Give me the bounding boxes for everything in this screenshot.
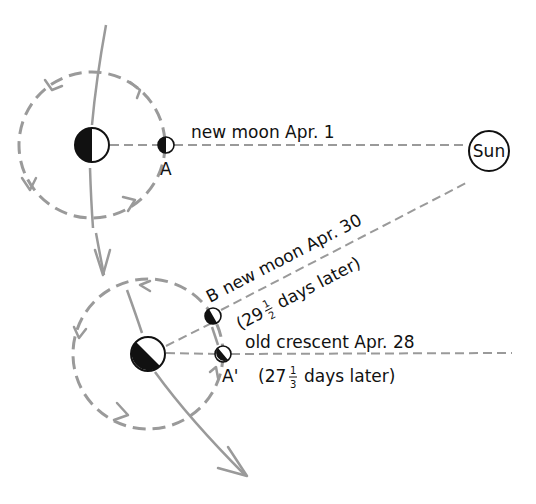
interval-b-numerator: 1 bbox=[261, 297, 272, 310]
moon-icon bbox=[205, 308, 221, 324]
moon-phase-diagram: Sun A new moon Apr. 1 B new moon Apr. 30… bbox=[0, 0, 536, 504]
interval-a-prime-suffix: days later) bbox=[304, 366, 395, 386]
marker-b: B bbox=[203, 283, 223, 306]
orbit-arrow-icon bbox=[140, 281, 150, 291]
marker-a: A bbox=[160, 159, 172, 179]
orbit-arrow-icon bbox=[123, 197, 135, 211]
line-moon-a-prime-ext bbox=[231, 353, 512, 354]
earth-path-middle bbox=[90, 168, 93, 228]
interval-a-prime-prefix: (27 bbox=[258, 366, 286, 386]
label-new-moon-apr-1: new moon Apr. 1 bbox=[191, 122, 335, 142]
marker-a-prime: A' bbox=[222, 366, 238, 386]
earth-path-lower bbox=[155, 372, 245, 475]
moon-icon bbox=[215, 346, 231, 362]
line-earth-to-moon-a-prime bbox=[166, 353, 215, 354]
orbit-arrow-icon bbox=[74, 327, 86, 338]
sun-icon: Sun bbox=[469, 131, 509, 171]
interval-b-denominator: 2 bbox=[267, 309, 278, 322]
moon-icon bbox=[158, 137, 174, 153]
interval-b-prefix: (29 bbox=[233, 303, 267, 334]
label-old-crescent-apr-28: old crescent Apr. 28 bbox=[245, 332, 415, 352]
interval-a-prime-denominator: 3 bbox=[290, 379, 296, 390]
interval-a-prime-numerator: 1 bbox=[290, 365, 296, 376]
orbit-arrow-icon bbox=[210, 367, 218, 378]
earth-icon bbox=[131, 337, 165, 371]
earth-path-inner bbox=[127, 290, 142, 333]
line-moon-b-to-sun bbox=[221, 182, 468, 310]
orbit-arrow-icon bbox=[114, 403, 128, 420]
sun-label: Sun bbox=[473, 141, 505, 161]
line-earth-to-moon-b bbox=[166, 322, 214, 346]
moon-motion-segment bbox=[212, 327, 218, 345]
earth-path-upper bbox=[92, 25, 106, 125]
orbit-arrow-icon bbox=[130, 82, 140, 98]
earth-icon bbox=[75, 128, 109, 162]
